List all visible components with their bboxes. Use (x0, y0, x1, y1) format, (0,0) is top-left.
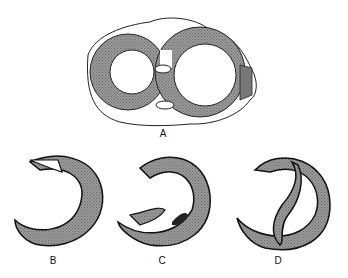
panel-c-figure (118, 157, 210, 246)
heart-diagram (0, 0, 348, 278)
panel-label-c: C (152, 255, 172, 266)
panel-label-d: D (268, 255, 288, 266)
panel-a-figure (87, 18, 256, 126)
panel-d-figure (237, 158, 330, 250)
panel-label-b: B (43, 255, 63, 266)
panel-label-a: A (153, 128, 173, 139)
panel-b-figure (15, 156, 103, 246)
